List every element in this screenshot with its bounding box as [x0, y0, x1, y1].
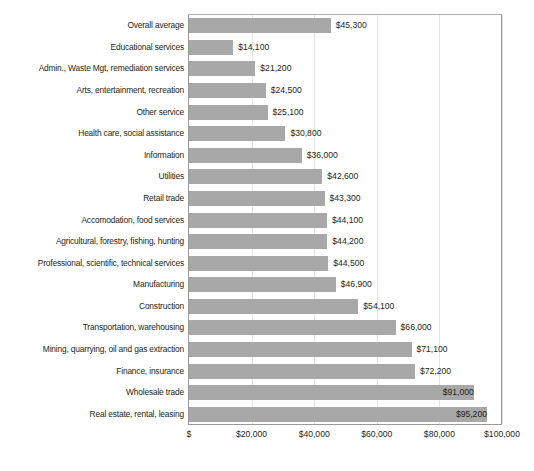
- bar-value-label: $72,200: [415, 364, 451, 379]
- bar: [189, 364, 415, 379]
- bar-chart: Overall averageEducational servicesAdmin…: [0, 0, 534, 471]
- bar-value-label: $54,100: [358, 299, 394, 314]
- bar: [189, 234, 327, 249]
- bar-value-label: $95,200: [189, 407, 491, 422]
- bar: [189, 18, 331, 33]
- bar-value-label: $43,300: [325, 191, 361, 206]
- bar-row: $21,200: [189, 61, 501, 76]
- category-label: Overall average: [0, 20, 184, 30]
- bar-row: $14,100: [189, 40, 501, 55]
- bar-value-label: $42,600: [322, 169, 358, 184]
- bar: [189, 126, 285, 141]
- bar: [189, 105, 268, 120]
- bar: [189, 169, 322, 184]
- category-label: Finance, insurance: [0, 366, 184, 376]
- bar-value-label: $24,500: [266, 83, 302, 98]
- category-label: Mining, quarrying, oil and gas extractio…: [0, 344, 184, 354]
- bar-value-label: $44,100: [327, 213, 363, 228]
- bar-row: $42,600: [189, 169, 501, 184]
- category-label: Transportation, warehousing: [0, 322, 184, 332]
- bar-value-label: $45,300: [331, 18, 367, 33]
- category-label: Manufacturing: [0, 279, 184, 289]
- x-tick-label: $: [187, 428, 192, 440]
- value-axis: $$20,000$40,000$60,000$80,000$100,000: [0, 428, 534, 448]
- x-tick-label: $40,000: [299, 428, 330, 440]
- bar-row: $72,200: [189, 364, 501, 379]
- bar-value-label: $21,200: [255, 61, 291, 76]
- bar: [189, 277, 336, 292]
- category-label: Utilities: [0, 171, 184, 181]
- bar-row: $36,000: [189, 148, 501, 163]
- bar: [189, 213, 327, 228]
- bar: [189, 256, 328, 271]
- bar-value-label: $91,000: [189, 385, 478, 400]
- category-label: Health care, social assistance: [0, 128, 184, 138]
- bar: [189, 299, 358, 314]
- category-label: Educational services: [0, 42, 184, 52]
- x-tick-label: $100,000: [484, 428, 520, 440]
- bar: [189, 83, 266, 98]
- bar-row: $43,300: [189, 191, 501, 206]
- bar-row: $44,100: [189, 213, 501, 228]
- category-label: Wholesale trade: [0, 387, 184, 397]
- bar: [189, 40, 233, 55]
- x-tick-label: $20,000: [236, 428, 267, 440]
- bar-value-label: $66,000: [396, 320, 432, 335]
- bar: [189, 191, 325, 206]
- bar-value-label: $14,100: [233, 40, 269, 55]
- bar-row: $44,200: [189, 234, 501, 249]
- category-label: Other service: [0, 107, 184, 117]
- bar-row: $30,800: [189, 126, 501, 141]
- bar-value-label: $44,200: [327, 234, 363, 249]
- gridline: [502, 15, 503, 424]
- category-label: Construction: [0, 301, 184, 311]
- bar-value-label: $44,500: [328, 256, 364, 271]
- bar-row: $66,000: [189, 320, 501, 335]
- category-label: Professional, scientific, technical serv…: [0, 258, 184, 268]
- bar-row: $24,500: [189, 83, 501, 98]
- bar: [189, 320, 396, 335]
- bar-value-label: $30,800: [285, 126, 321, 141]
- category-label: Retail trade: [0, 193, 184, 203]
- category-label: Accomodation, food services: [0, 215, 184, 225]
- category-label: Agricultural, forestry, fishing, hunting: [0, 236, 184, 246]
- bar-row: $54,100: [189, 299, 501, 314]
- bar-value-label: $71,100: [412, 342, 448, 357]
- x-tick-label: $60,000: [361, 428, 392, 440]
- bar-row: $46,900: [189, 277, 501, 292]
- bar-row: $91,000: [189, 385, 501, 400]
- category-label: Real estate, rental, leasing: [0, 409, 184, 419]
- bar-row: $95,200: [189, 407, 501, 422]
- category-label: Arts, entertainment, recreation: [0, 85, 184, 95]
- bars-layer: $45,300$14,100$21,200$24,500$25,100$30,8…: [189, 15, 501, 424]
- category-label: Admin., Waste Mgt, remediation services: [0, 63, 184, 73]
- bar-row: $25,100: [189, 105, 501, 120]
- bar-row: $45,300: [189, 18, 501, 33]
- plot-area: $45,300$14,100$21,200$24,500$25,100$30,8…: [188, 14, 502, 425]
- bar-value-label: $46,900: [336, 277, 372, 292]
- bar: [189, 61, 255, 76]
- bar: [189, 148, 302, 163]
- category-axis: Overall averageEducational servicesAdmin…: [0, 14, 184, 425]
- bar-value-label: $36,000: [302, 148, 338, 163]
- category-label: Information: [0, 150, 184, 160]
- bar-row: $71,100: [189, 342, 501, 357]
- bar-row: $44,500: [189, 256, 501, 271]
- x-tick-label: $80,000: [424, 428, 455, 440]
- bar: [189, 342, 412, 357]
- bar-value-label: $25,100: [268, 105, 304, 120]
